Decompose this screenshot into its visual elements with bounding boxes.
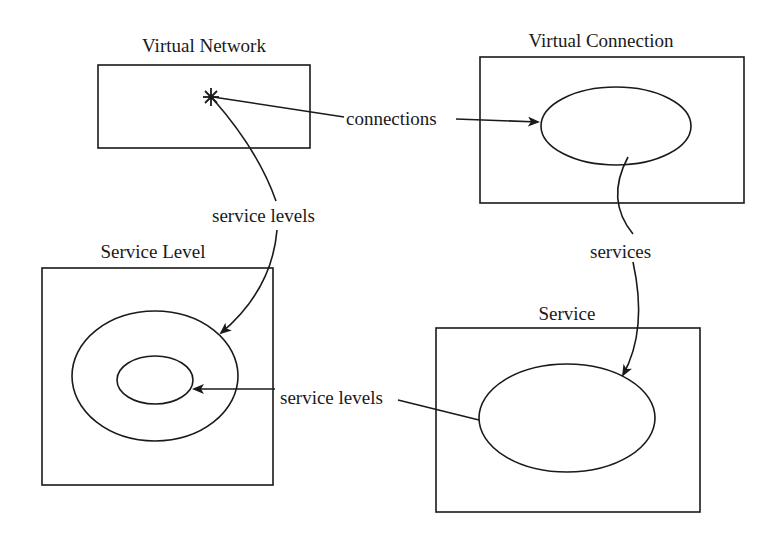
node-title-service: Service xyxy=(539,303,596,324)
service-level-outer-ellipse xyxy=(72,311,238,441)
edge-vn-service-levels-line-2 xyxy=(221,230,277,333)
object-relationship-diagram: Virtual Network Virtual Connection Servi… xyxy=(0,0,779,541)
node-virtual-connection: Virtual Connection xyxy=(480,30,744,203)
edge-connections-line-1 xyxy=(213,97,344,117)
virtual-connection-box xyxy=(480,57,744,203)
edge-label-svc-service-levels: service levels xyxy=(280,387,383,408)
virtual-connection-ellipse xyxy=(541,87,691,165)
edge-label-services: services xyxy=(590,241,651,262)
node-service: Service xyxy=(436,303,700,512)
edge-vn-service-levels-line-1 xyxy=(213,99,276,201)
edge-services-line-1 xyxy=(618,157,633,234)
node-virtual-network: Virtual Network xyxy=(98,35,310,148)
service-ellipse xyxy=(479,364,655,472)
service-box xyxy=(436,328,700,512)
node-title-virtual-network: Virtual Network xyxy=(142,35,266,56)
edge-connections: connections xyxy=(213,97,538,129)
edge-connections-line-2 xyxy=(456,119,538,122)
service-level-inner-ellipse xyxy=(117,356,193,404)
edge-svc-service-levels-line-1 xyxy=(398,400,479,420)
node-title-virtual-connection: Virtual Connection xyxy=(528,30,674,51)
edge-vn-service-levels: service levels xyxy=(212,99,315,333)
edge-services-line-2 xyxy=(623,262,639,375)
edge-label-connections: connections xyxy=(346,108,437,129)
edge-services: services xyxy=(590,157,651,375)
node-title-service-level: Service Level xyxy=(101,241,206,262)
edge-label-vn-service-levels: service levels xyxy=(212,205,315,226)
node-service-level: Service Level xyxy=(42,241,273,485)
